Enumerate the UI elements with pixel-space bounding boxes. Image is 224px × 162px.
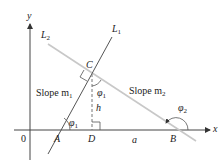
right-angle-c <box>80 70 87 81</box>
angle-phi2-b-label: φ2 <box>178 103 187 115</box>
l2-label: L2 <box>41 30 50 42</box>
angle-arc-c <box>92 80 101 86</box>
x-axis-label: x <box>213 124 217 134</box>
angle-phi1-c-label: φ1 <box>97 88 106 100</box>
point-a-label: A <box>54 134 60 144</box>
point-d-label: D <box>88 134 95 144</box>
origin-label: 0 <box>21 134 26 144</box>
segment-a-label: a <box>132 135 137 145</box>
slope-m2-label: Slope m2 <box>129 86 166 98</box>
y-axis-label: y <box>27 11 31 21</box>
point-b-label: B <box>170 134 176 144</box>
point-c-label: C <box>86 60 93 70</box>
angle-phi1-a-label: φ1 <box>69 118 78 130</box>
height-h-label: h <box>96 103 101 113</box>
l1-label: L1 <box>112 24 121 36</box>
right-angle-d <box>92 122 100 130</box>
slope-m1-label: Slope m1 <box>36 88 73 100</box>
